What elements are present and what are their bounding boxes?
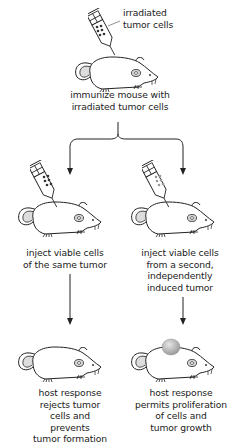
branch-brace xyxy=(70,122,183,172)
caption-line: cells and xyxy=(10,410,130,422)
syringe-icon xyxy=(84,8,123,60)
left-injection-group xyxy=(19,160,101,237)
caption-line: host response xyxy=(118,387,236,399)
right-injection-group xyxy=(132,160,214,237)
caption-line: of the same tumor xyxy=(5,259,125,271)
mouse-icon xyxy=(132,202,214,237)
caption-line: tumor growth xyxy=(118,422,236,434)
tumor-icon xyxy=(162,339,180,355)
mouse-icon xyxy=(76,57,158,92)
caption-line: irradiated tumor cells xyxy=(40,101,200,113)
caption-line: tumor formation xyxy=(10,433,130,445)
label-leader-line xyxy=(108,21,120,26)
left-injection-caption: inject viable cells of the same tumor xyxy=(5,247,125,270)
caption-line: rejects tumor xyxy=(10,399,130,411)
caption-line: immunize mouse with xyxy=(40,89,200,101)
diagram-canvas xyxy=(0,0,236,445)
arrow-down-left-icon xyxy=(67,318,73,325)
caption-line: independently xyxy=(120,270,236,282)
arrow-left-icon xyxy=(67,168,73,175)
syringe-label-line: tumor cells xyxy=(123,19,173,31)
arrow-right-icon xyxy=(180,168,186,175)
caption-line: prevents xyxy=(10,422,130,434)
mouse-rejects-icon xyxy=(19,347,101,382)
caption-line: inject viable cells xyxy=(5,247,125,259)
caption-line: inject viable cells xyxy=(120,247,236,259)
top-caption: immunize mouse with irradiated tumor cel… xyxy=(40,89,200,112)
caption-line: permits proliferation xyxy=(118,399,236,411)
right-injection-caption: inject viable cells from a second, indep… xyxy=(120,247,236,293)
arrow-down-right-icon xyxy=(180,318,186,325)
right-outcome-caption: host response permits proliferation of c… xyxy=(118,387,236,433)
syringe-label-line: irradiated xyxy=(123,7,173,19)
left-outcome-caption: host response rejects tumor cells and pr… xyxy=(10,387,130,445)
caption-line: host response xyxy=(10,387,130,399)
syringe-label: irradiated tumor cells xyxy=(123,7,173,30)
caption-line: from a second, xyxy=(120,259,236,271)
caption-line: of cells and xyxy=(118,410,236,422)
caption-line: induced tumor xyxy=(120,282,236,294)
mouse-icon xyxy=(19,202,101,237)
